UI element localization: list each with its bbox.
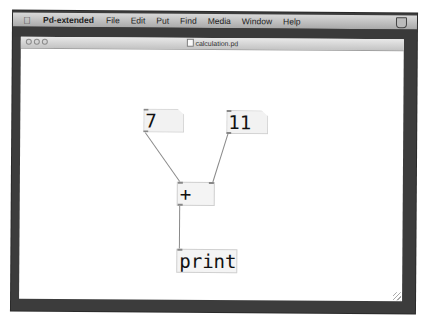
menu-put[interactable]: Put	[156, 16, 169, 26]
inlet-left[interactable]	[178, 182, 183, 184]
outlet[interactable]	[178, 204, 183, 206]
apple-logo-icon[interactable]: 	[21, 14, 33, 25]
menu-file[interactable]: File	[106, 15, 120, 25]
object-text: print	[179, 250, 236, 272]
menu-app-name[interactable]: Pd-extended	[43, 15, 94, 25]
outlet[interactable]	[226, 132, 231, 134]
window-title-text: calculation.pd	[195, 40, 238, 47]
patch-canvas[interactable]: 7 11 + print	[19, 49, 404, 302]
number-box-right[interactable]: 11	[226, 110, 268, 134]
menu-find[interactable]: Find	[180, 16, 197, 26]
number-box-left[interactable]: 7	[143, 109, 184, 133]
print-object[interactable]: print	[176, 249, 237, 273]
wire-7-to-add[interactable]	[145, 133, 180, 182]
wire-11-to-add[interactable]	[213, 133, 228, 182]
menu-media[interactable]: Media	[208, 16, 231, 26]
screen-bezel:  Pd-extended File Edit Put Find Media W…	[11, 11, 417, 314]
resize-grip[interactable]	[393, 292, 401, 300]
inlet[interactable]	[226, 110, 231, 112]
number-value: 11	[228, 111, 251, 133]
outlet[interactable]	[143, 131, 148, 133]
shield-status-icon[interactable]	[396, 17, 407, 28]
inlet-right[interactable]	[209, 182, 214, 184]
menu-help[interactable]: Help	[283, 16, 301, 26]
inlet[interactable]	[143, 109, 148, 111]
menu-edit[interactable]: Edit	[131, 15, 146, 25]
add-object[interactable]: +	[177, 182, 215, 206]
document-icon	[186, 39, 193, 47]
menu-window[interactable]: Window	[242, 16, 272, 26]
object-text: +	[180, 183, 192, 205]
number-value: 7	[145, 110, 157, 132]
inlet[interactable]	[177, 249, 182, 251]
patch-window: calculation.pd 7 11 +	[19, 37, 404, 302]
